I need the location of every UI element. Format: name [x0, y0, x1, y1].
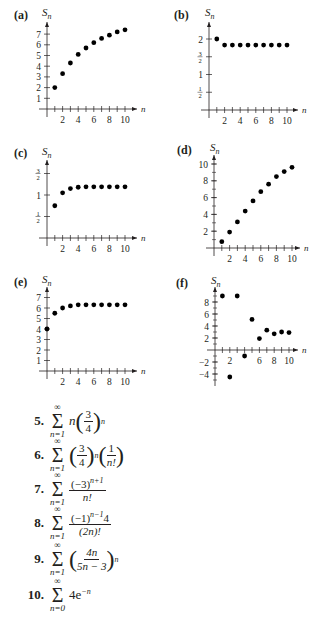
panel-f: (f) Sn n26810−4−22468 — [0, 0, 331, 400]
svg-text:8: 8 — [204, 298, 209, 308]
exercise-10: 10. ∞Σn=0 4e−n — [18, 578, 91, 612]
exercise-number: 6. — [18, 447, 44, 463]
term: 4e−n — [69, 587, 91, 603]
summation: ∞Σn=1 — [50, 541, 65, 577]
exercise-9: 9. ∞Σn=1 (4n5n − 3)n — [18, 542, 119, 576]
exercise-number: 5. — [18, 413, 44, 429]
scatter-plot-f: n26810−4−22468 — [0, 0, 331, 400]
exercise-6: 6. ∞Σn=1 (34)n (1n!) — [18, 438, 124, 472]
svg-text:2: 2 — [204, 334, 209, 344]
svg-text:6: 6 — [204, 310, 209, 320]
summation: ∞Σn=1 — [50, 505, 65, 541]
svg-text:4: 4 — [204, 322, 209, 332]
svg-text:2: 2 — [227, 356, 232, 366]
summation: ∞Σn=1 — [50, 403, 65, 439]
exercise-number: 8. — [18, 515, 44, 531]
summation: ∞Σn=1 — [50, 437, 65, 473]
svg-text:−2: −2 — [199, 358, 209, 368]
exercise-number: 9. — [18, 551, 44, 567]
exercise-5: 5. ∞Σn=1 n (34)n — [18, 404, 105, 438]
exercise-7: 7. ∞Σn=1 (−3)n+1n! — [18, 472, 106, 506]
summation: ∞Σn=0 — [50, 577, 65, 613]
exercise-8: 8. ∞Σn=1 (−1)n−14(2n)! — [18, 506, 111, 540]
exercise-number: 10. — [18, 587, 44, 603]
svg-text:10: 10 — [284, 356, 294, 366]
exercise-number: 7. — [18, 481, 44, 497]
summation: ∞Σn=1 — [50, 471, 65, 507]
svg-text:n: n — [302, 345, 307, 355]
svg-text:−4: −4 — [199, 370, 209, 380]
svg-text:8: 8 — [272, 356, 277, 366]
svg-text:6: 6 — [257, 356, 262, 366]
